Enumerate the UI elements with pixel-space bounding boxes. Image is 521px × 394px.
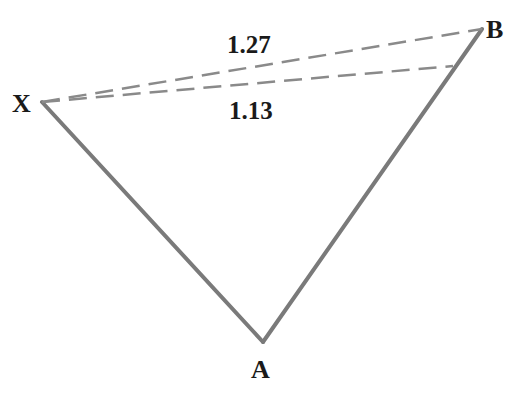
- leg-xa: [42, 102, 263, 342]
- ratio-label-127: 1.27: [227, 31, 271, 58]
- vertex-label-a: A: [251, 355, 270, 384]
- leg-ab: [263, 29, 482, 342]
- diagram-svg: X A B 1.27 1.13: [0, 0, 521, 394]
- vertex-label-b: B: [486, 15, 503, 44]
- harmonic-pattern-diagram: X A B 1.27 1.13: [0, 0, 521, 394]
- ratio-label-113: 1.13: [229, 97, 273, 124]
- vertex-label-x: X: [12, 89, 31, 118]
